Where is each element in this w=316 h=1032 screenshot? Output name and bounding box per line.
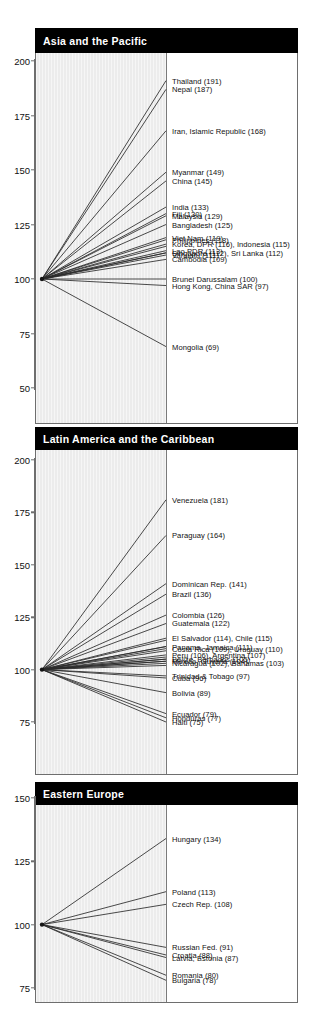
series-label: Myanmar (149) [172, 168, 224, 177]
y-axis-tick-label: 75 [0, 328, 33, 339]
series-label: Cuba (96) [172, 673, 206, 682]
y-axis-tick-label: 175 [0, 110, 33, 121]
y-axis-tick-label: 75 [0, 982, 33, 993]
series-label: Hong Kong, China SAR (97) [172, 281, 269, 290]
series-label: Thailand (191) [172, 76, 222, 85]
series-label: Venezuela (181) [172, 495, 228, 504]
series-label: Paraguay (164) [172, 531, 225, 540]
index-fan-chart-figure: Asia and the PacificThailand (191)Nepal … [0, 0, 316, 1032]
panel-title: Latin America and the Caribbean [35, 427, 298, 450]
y-axis-tick-label: 125 [0, 612, 33, 623]
y-axis-tick-label: 150 [0, 793, 33, 804]
y-axis-tick-label: 150 [0, 165, 33, 176]
series-label: Cambodia (109) [172, 255, 227, 264]
series-label: Latvia, Estonia (87) [172, 953, 238, 962]
series-label: Hungary (134) [172, 834, 221, 843]
y-axis-tick-label: 100 [0, 274, 33, 285]
series-label: Haiti (75) [172, 718, 203, 727]
chart-panel: Asia and the PacificThailand (191)Nepal … [35, 28, 298, 424]
panel-body: Venezuela (181)Paraguay (164)Dominican R… [35, 450, 298, 775]
series-label: Mongolia (69) [172, 342, 219, 351]
y-axis-tick-label: 150 [0, 559, 33, 570]
series-label: Bulgaria (78) [172, 976, 216, 985]
series-label: China (145) [172, 176, 212, 185]
series-label: Dominican Rep. (141) [172, 579, 247, 588]
series-label: Bangladesh (125) [172, 220, 233, 229]
y-axis-tick-label: 50 [0, 383, 33, 394]
panel-title: Eastern Europe [35, 782, 298, 805]
chart-panel: Eastern EuropeHungary (134)Poland (113)C… [35, 782, 298, 1003]
series-label: Czech Rep. (108) [172, 900, 232, 909]
panel-body: Thailand (191)Nepal (187)Iran, Islamic R… [35, 53, 298, 424]
y-axis-tick-label: 125 [0, 856, 33, 867]
y-axis-spine [34, 59, 36, 390]
panel-title: Asia and the Pacific [35, 28, 298, 53]
y-axis-tick-label: 100 [0, 919, 33, 930]
series-lines [36, 450, 299, 774]
y-axis-tick-label: 125 [0, 219, 33, 230]
y-axis-spine [34, 796, 36, 990]
series-lines [36, 805, 299, 1002]
y-axis-spine [34, 458, 36, 724]
series-label: Nepal (187) [172, 85, 212, 94]
y-axis-tick-label: 100 [0, 664, 33, 675]
series-label: Poland (113) [172, 887, 216, 896]
y-axis-tick-label: 200 [0, 455, 33, 466]
series-label: Malaysia (129) [172, 211, 223, 220]
series-label: Guatemala (122) [172, 619, 230, 628]
series-label: Iran, Islamic Republic (168) [172, 126, 266, 135]
y-axis-tick-label: 175 [0, 507, 33, 518]
series-label: Nicaragua (102), Bahamas (103) [172, 659, 284, 668]
chart-panel: Latin America and the CaribbeanVenezuela… [35, 427, 298, 775]
panel-body: Hungary (134)Poland (113)Czech Rep. (108… [35, 805, 298, 1003]
series-label: Bolivia (89) [172, 688, 211, 697]
series-label: Brazil (136) [172, 590, 211, 599]
y-axis-tick-label: 200 [0, 56, 33, 67]
series-lines [36, 53, 299, 423]
y-axis-tick-label: 75 [0, 717, 33, 728]
